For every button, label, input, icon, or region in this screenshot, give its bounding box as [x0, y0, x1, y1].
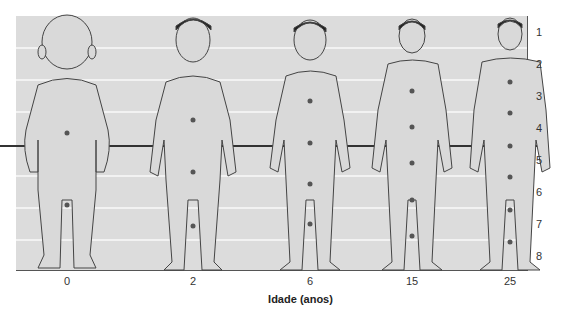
figure-age-0	[25, 15, 110, 268]
age-label-6: 6	[307, 275, 313, 287]
scale-label-6: 6	[536, 186, 542, 198]
age-label-2: 2	[190, 275, 196, 287]
figure-age-15	[372, 19, 452, 270]
scale-label-1: 1	[536, 26, 542, 38]
scale-label-2: 2	[536, 58, 542, 70]
scale-label-7: 7	[536, 218, 542, 230]
age-label-15: 15	[406, 275, 418, 287]
scale-label-3: 3	[536, 90, 542, 102]
head-units-scale: 1 2 3 4 5 6 7 8	[530, 16, 570, 270]
scale-label-8: 8	[536, 250, 542, 262]
age-label-25: 25	[504, 275, 516, 287]
figure-age-2	[150, 18, 236, 270]
scale-label-5: 5	[536, 154, 542, 166]
figures-illustration	[0, 0, 577, 322]
age-labels: 0 2 6 15 25	[0, 275, 577, 291]
age-label-0: 0	[64, 275, 70, 287]
x-axis-label: Idade (anos)	[0, 293, 577, 305]
scale-label-4: 4	[536, 122, 542, 134]
